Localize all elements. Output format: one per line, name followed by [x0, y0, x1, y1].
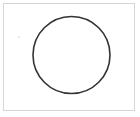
diagram-canvas [0, 0, 140, 117]
stray-dot [18, 36, 20, 38]
circle-shape [33, 17, 110, 94]
